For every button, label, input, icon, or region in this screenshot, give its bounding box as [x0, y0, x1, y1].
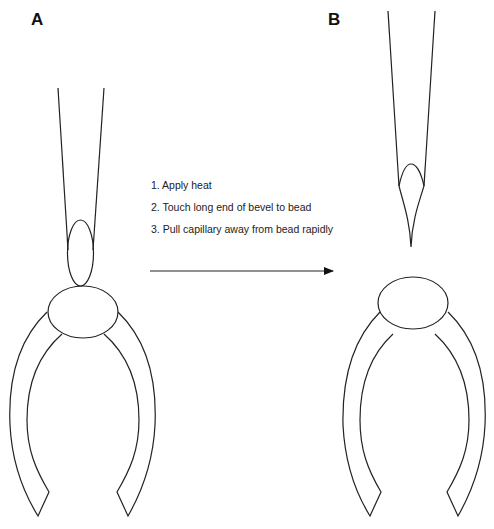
panel-b-capillary — [388, 11, 435, 247]
panel-a-capillary — [58, 88, 104, 250]
bead-pulling-diagram: A B 1. Apply heat 2. Touch long end of b… — [0, 0, 494, 529]
panel-b-dome — [399, 164, 424, 186]
panel-b-large-bead — [378, 277, 448, 329]
panel-b-horseshoe — [343, 312, 485, 516]
panel-b-tip — [399, 186, 424, 247]
panel-a-capillary-bead — [68, 220, 94, 286]
panel-a-horseshoe — [10, 312, 155, 516]
panel-a-large-bead — [48, 286, 118, 338]
diagram-graphics — [0, 0, 494, 529]
